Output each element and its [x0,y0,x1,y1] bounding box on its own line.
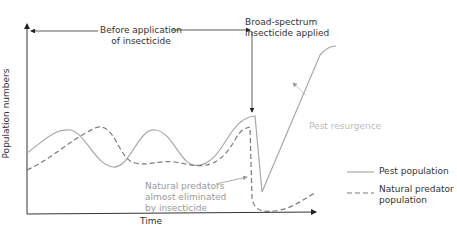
legend-predator-label: Natural predator population [379,184,454,206]
insecticide-label-line1: Broad-spectrum [245,17,329,28]
predators-label-line1: Natural predators [145,181,226,192]
legend-predator-line2: population [379,195,454,206]
insecticide-label-line2: insecticide applied [245,28,329,39]
legend-pest-label: Pest population [379,166,449,177]
y-axis-label: Population numbers [1,69,12,159]
pest-resurgence-label: Pest resurgence [309,121,381,132]
predators-label-line2: almost eliminated [145,192,226,203]
before-label: Before application of insecticide [100,25,182,47]
predators-label-line3: by insecticide [145,203,226,214]
insecticide-label: Broad-spectrum insecticide applied [245,17,329,39]
legend-predator-line1: Natural predator [379,184,454,195]
x-axis-label: Time [140,216,162,227]
before-label-line1: Before application [100,25,182,36]
pest-population-line [27,46,336,192]
before-label-line2: of insecticide [100,36,182,47]
pest-resurgence-pointer [293,83,306,95]
predators-label: Natural predators almost eliminated by i… [145,181,226,214]
